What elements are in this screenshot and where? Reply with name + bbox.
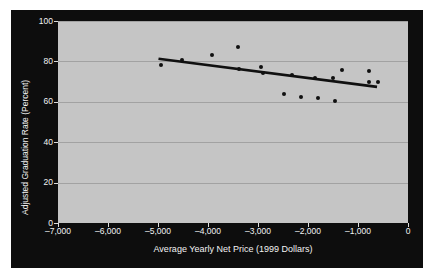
x-axis-title: Average Yearly Net Price (1999 Dollars) xyxy=(58,244,408,254)
x-axis-tick-mark xyxy=(308,223,309,227)
x-axis-tick-mark xyxy=(58,223,59,227)
y-axis-tick-mark xyxy=(54,102,58,103)
y-axis-tick-label: 80 xyxy=(14,57,58,66)
y-axis-title: Adjusted Graduation Rate (Percent) xyxy=(20,80,30,215)
chart-figure: 020406080100 –7,000–6,000–5,000–4,000–3,… xyxy=(11,10,423,268)
y-axis-tick-label: 100 xyxy=(14,17,58,26)
y-axis-tick-mark xyxy=(54,142,58,143)
x-axis-tick-mark xyxy=(108,223,109,227)
x-axis-tick-mark xyxy=(358,223,359,227)
x-axis-tick-label: –4,000 xyxy=(183,226,233,236)
x-axis-tick-mark xyxy=(258,223,259,227)
x-axis-tick-label: –2,000 xyxy=(283,226,333,236)
y-axis-tick-mark xyxy=(54,21,58,22)
x-axis-tick-label: –3,000 xyxy=(233,226,283,236)
x-axis-tick-label: –7,000 xyxy=(33,226,83,236)
y-axis-tick-mark xyxy=(54,61,58,62)
plot-area xyxy=(58,21,408,223)
x-axis-tick-mark xyxy=(208,223,209,227)
trend-line xyxy=(58,21,408,223)
x-axis-tick-label: –6,000 xyxy=(83,226,133,236)
x-axis-tick-label: –5,000 xyxy=(133,226,183,236)
x-axis-tick-mark xyxy=(158,223,159,227)
x-axis-tick-label: –1,000 xyxy=(333,226,383,236)
trend-line-segment xyxy=(159,59,378,87)
y-axis-tick-mark xyxy=(54,183,58,184)
x-axis-tick-label: 0 xyxy=(383,226,433,236)
x-axis-tick-mark xyxy=(408,223,409,227)
